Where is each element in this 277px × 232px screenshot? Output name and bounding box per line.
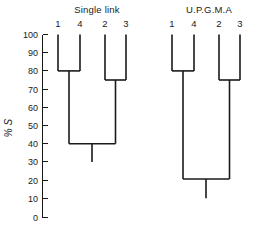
leaf-label-2: 2: [102, 18, 107, 29]
leaf-label-2: 2: [216, 18, 221, 29]
y-tick-label-40: 40: [28, 139, 38, 149]
panel-title-single-link: Single link: [74, 4, 120, 15]
y-tick-label-90: 90: [28, 48, 38, 58]
y-tick-label-60: 60: [28, 103, 38, 113]
y-axis-ticks: [43, 35, 48, 218]
y-tick-label-0: 0: [33, 213, 38, 223]
y-tick-label-20: 20: [28, 176, 38, 186]
leaf-labels-single-link: 1 4 2 3: [55, 18, 128, 29]
panel-single-link: Single link 1 4 2 3: [55, 4, 128, 162]
leaf-labels-upgma: 1 4 2 3: [169, 18, 242, 29]
y-axis-title: % S: [3, 119, 14, 138]
leaf-label-4: 4: [77, 18, 82, 29]
dendrogram-single-link: [58, 35, 126, 162]
y-tick-label-50: 50: [28, 121, 38, 131]
dendrogram-canvas: 100 90 80 70 60 50 40 30 20 10 0 % S Sin…: [0, 0, 277, 232]
panel-upgma: U.P.G.M.A 1 4 2 3: [169, 4, 242, 198]
y-axis: 100 90 80 70 60 50 40 30 20 10 0 % S: [3, 30, 48, 223]
y-tick-label-100: 100: [23, 30, 38, 40]
y-tick-label-70: 70: [28, 85, 38, 95]
leaf-label-3: 3: [123, 18, 128, 29]
dendrogram-figure: 100 90 80 70 60 50 40 30 20 10 0 % S Sin…: [0, 0, 277, 232]
y-tick-label-80: 80: [28, 66, 38, 76]
leaf-label-3: 3: [237, 18, 242, 29]
leaf-label-4: 4: [191, 18, 196, 29]
y-axis-tick-labels: 100 90 80 70 60 50 40 30 20 10 0: [23, 30, 38, 223]
y-tick-label-30: 30: [28, 157, 38, 167]
y-tick-label-10: 10: [28, 194, 38, 204]
panel-title-upgma: U.P.G.M.A: [186, 4, 232, 15]
leaf-label-1: 1: [169, 18, 174, 29]
leaf-label-1: 1: [55, 18, 60, 29]
dendrogram-upgma: [172, 35, 240, 199]
